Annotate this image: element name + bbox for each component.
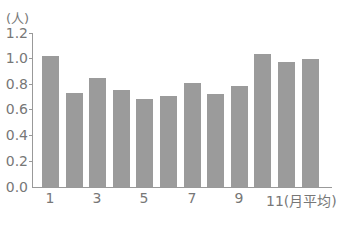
bar-7 [184, 83, 201, 187]
bar-1 [42, 56, 59, 187]
y-tick-label: 1.0 [0, 51, 28, 65]
bar-10 [254, 54, 271, 187]
y-tick-label: 1.2 [0, 26, 28, 40]
bar-5 [136, 99, 153, 187]
y-axis [32, 33, 33, 188]
x-tick-label: 3 [82, 190, 112, 206]
x-tick-label: 5 [129, 190, 159, 206]
x-tick-label: 7 [177, 190, 207, 206]
bar-4 [113, 90, 130, 187]
x-axis [32, 187, 332, 188]
bar-2 [66, 93, 83, 187]
bar-11 [278, 62, 295, 187]
x-tick-label: 1 [35, 190, 65, 206]
bar-(月平均) [302, 59, 319, 188]
y-tick-label: 0.0 [0, 180, 28, 194]
x-tick-label: 11(月平均) [266, 190, 337, 210]
bar-3 [89, 78, 106, 187]
y-tick-label: 0.6 [0, 102, 28, 116]
y-tick-label: 0.8 [0, 77, 28, 91]
y-tick-label: 0.4 [0, 128, 28, 142]
x-tick-label: 9 [224, 190, 254, 206]
bar-9 [231, 86, 248, 187]
bar-8 [207, 94, 224, 187]
y-tick-label: 0.2 [0, 154, 28, 168]
bar-6 [160, 96, 177, 187]
